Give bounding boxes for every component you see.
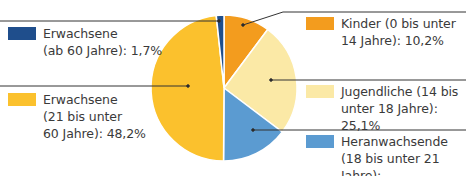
legend-label-erwachsene-60: Erwachsene (ab 60 Jahre): 1,7% xyxy=(43,25,162,59)
pie-slices xyxy=(151,15,297,161)
leader-dot-heranwachsende xyxy=(252,129,255,132)
legend-item-erwachsene-21: Erwachsene (21 bis unter 60 Jahre): 48,2… xyxy=(8,91,146,142)
legend-swatch-jugendliche xyxy=(306,85,334,98)
legend-label-kinder: Kinder (0 bis unter 14 Jahre): 10,2% xyxy=(341,15,456,49)
legend-item-jugendliche: Jugendliche (14 bis unter 18 Jahre): 25,… xyxy=(306,83,466,134)
leader-dot-kinder xyxy=(242,24,245,27)
legend-swatch-heranwachsende xyxy=(306,135,334,148)
legend-swatch-erwachsene-21 xyxy=(8,93,36,106)
legend-swatch-erwachsene-60 xyxy=(8,27,36,40)
leader-dot-erwachsene60 xyxy=(218,20,221,23)
legend-item-erwachsene-60: Erwachsene (ab 60 Jahre): 1,7% xyxy=(8,25,162,59)
legend-label-erwachsene-21: Erwachsene (21 bis unter 60 Jahre): 48,2… xyxy=(43,91,146,142)
leader-dot-erwachsene21 xyxy=(187,85,190,88)
legend-item-kinder: Kinder (0 bis unter 14 Jahre): 10,2% xyxy=(306,15,456,49)
legend-label-heranwachsende: Heranwachsende (18 bis unter 21 Jahre): … xyxy=(341,133,466,176)
legend-item-heranwachsende: Heranwachsende (18 bis unter 21 Jahre): … xyxy=(306,133,466,176)
legend-swatch-kinder xyxy=(306,17,334,30)
legend-label-jugendliche: Jugendliche (14 bis unter 18 Jahre): 25,… xyxy=(341,83,466,134)
leader-dot-jugendliche xyxy=(270,79,273,82)
